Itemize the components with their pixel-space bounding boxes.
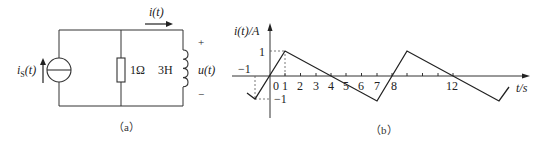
y-tick-pos-label: 1 — [259, 45, 265, 59]
caption-a: （a） — [113, 121, 140, 133]
svg-text:12: 12 — [446, 79, 458, 93]
source-label: iS(t) — [17, 63, 36, 79]
x-tick-neg-label: −1 — [238, 62, 251, 76]
inductor-icon — [183, 50, 188, 87]
x-axis-arrow-icon — [522, 74, 530, 79]
minus-sign: − — [198, 88, 204, 100]
x-tick-labels: 0 1 2 3 4 5 6 7 8 12 — [273, 79, 458, 93]
svg-text:7: 7 — [374, 79, 380, 93]
current-label: i(t) — [149, 5, 164, 19]
current-arrow-icon — [145, 21, 173, 27]
inductor-label: 3H — [158, 63, 173, 77]
svg-text:8: 8 — [391, 79, 397, 93]
x-axis-label: t/s — [516, 81, 528, 95]
svg-text:2: 2 — [297, 79, 303, 93]
figure-canvas: iS(t) 1Ω 3H i(t) + u(t) − （a） — [0, 0, 543, 149]
y-axis-label: i(t)/A — [234, 24, 260, 38]
y-axis-arrow-icon — [268, 23, 273, 31]
resistor-label: 1Ω — [130, 63, 145, 77]
caption-b: （b） — [370, 124, 398, 136]
current-source-icon — [47, 58, 71, 82]
voltage-label: u(t) — [198, 63, 215, 77]
waveform-chart: i(t)/A t/s 1 −1 −1 0 1 2 3 4 5 6 7 8 12 — [232, 23, 530, 118]
resistor-icon — [117, 58, 125, 82]
svg-text:4: 4 — [328, 79, 334, 93]
svg-text:6: 6 — [358, 79, 364, 93]
svg-text:0: 0 — [273, 79, 279, 93]
svg-text:5: 5 — [343, 79, 349, 93]
source-arrow-icon — [40, 58, 46, 83]
svg-text:3: 3 — [313, 79, 319, 93]
svg-text:1: 1 — [282, 79, 288, 93]
plus-sign: + — [198, 36, 204, 48]
y-tick-neg-label: −1 — [274, 92, 287, 106]
